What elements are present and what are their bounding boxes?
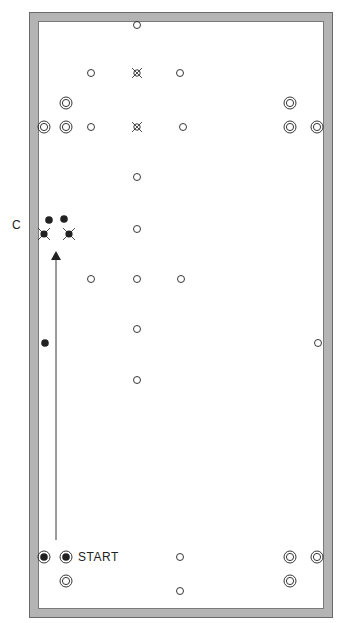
open-spot-icon [177,70,184,77]
cross-spot-icon [132,68,142,78]
double-ring-icon [60,575,72,587]
c-marker-label: C [12,218,21,232]
double-ring-icon [311,551,323,563]
crossed-ball-markers [38,228,75,240]
double-ring-icon [284,121,296,133]
start-ball-markers [38,551,72,563]
crossed-ball-icon [63,228,75,240]
double-ring-icon [38,121,50,133]
ball-dot-icon [60,215,68,223]
shot-path-arrow [51,251,61,540]
crossed-ball-icon [38,228,50,240]
open-spot-icon [88,124,95,131]
double-ring-icon [311,121,323,133]
double-ring-icon [284,97,296,109]
open-spot-icon [134,377,141,384]
start-ball-icon [60,551,72,563]
double-ring-icon [60,121,72,133]
arrow-up-icon [51,251,61,540]
double-ring-icon [284,551,296,563]
start-ball-icon [38,551,50,563]
open-spot-icon [134,174,141,181]
table-markings [0,0,343,623]
open-spot-icon [177,588,184,595]
open-spot-icon [88,70,95,77]
double-ring-markers [38,97,323,587]
cross-spots [132,68,142,132]
open-spot-icon [315,340,322,347]
start-label: START [78,550,119,564]
open-spot-icon [134,276,141,283]
open-spot-icon [178,276,185,283]
open-spot-icon [134,22,141,29]
double-ring-icon [60,97,72,109]
open-spot-icon [177,554,184,561]
open-spot-icon [88,276,95,283]
open-spot-icon [180,124,187,131]
ball-dot-icon [45,216,53,224]
open-spot-icon [134,226,141,233]
double-ring-icon [284,575,296,587]
cross-spot-icon [132,122,142,132]
ball-dot-icon [41,339,49,347]
open-spot-icon [134,326,141,333]
